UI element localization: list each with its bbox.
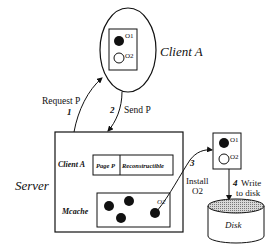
step4-label: Write — [241, 178, 261, 188]
step1-number: 1 — [67, 107, 72, 117]
mcache-object — [124, 196, 134, 206]
mcache-object — [104, 201, 114, 211]
server-title: Server — [15, 178, 50, 193]
reconstructible-cell: Reconstructible — [121, 162, 164, 169]
mcache-label: Mcache — [61, 207, 89, 216]
step4-label-target: to disk — [236, 188, 261, 198]
step4-number: 4 — [232, 178, 238, 188]
step3-label-object: O2 — [192, 186, 203, 196]
step3-label: Install — [186, 176, 209, 186]
client-o2-label: O2 — [125, 52, 134, 60]
remote-object-o2 — [219, 154, 229, 164]
step2-number: 2 — [109, 105, 115, 115]
mcache-object — [116, 213, 126, 223]
client-object-o2 — [114, 53, 124, 63]
step1-label: Request P — [42, 96, 80, 106]
remote-o2-label: O2 — [230, 153, 239, 161]
step3-number: 3 — [189, 158, 195, 168]
disk-label: Disk — [224, 220, 243, 230]
remote-o1-label: O1 — [230, 136, 239, 144]
client-object-o1 — [114, 36, 124, 46]
client-a-title: Client A — [160, 44, 203, 59]
step2-label: Send P — [124, 105, 151, 115]
diagram-canvas: O1 O2 Client A Request P 1 2 Send P Serv… — [0, 0, 271, 252]
remote-object-o1 — [219, 138, 229, 148]
server-client-row-label: Client A — [58, 160, 86, 169]
client-a-node: O1 O2 — [100, 8, 156, 92]
page-p-cell: Page P — [96, 162, 116, 169]
client-o1-label: O1 — [125, 32, 134, 40]
remote-page: O1 O2 — [213, 133, 241, 169]
